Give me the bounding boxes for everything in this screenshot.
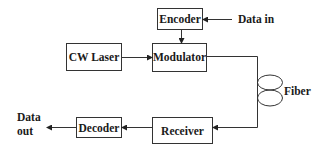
decoder-label: Decoder bbox=[79, 122, 120, 134]
data-in-label: Data in bbox=[238, 13, 275, 25]
fiber-label: Fiber bbox=[284, 85, 311, 97]
decoder-block: Decoder bbox=[77, 118, 122, 138]
block-diagram: Encoder CW Laser Modulator Receiver Deco… bbox=[0, 0, 332, 151]
cw-laser-label: CW Laser bbox=[69, 51, 120, 63]
data-out-label-line1: Data bbox=[17, 111, 41, 123]
modulator-label: Modulator bbox=[153, 51, 206, 63]
encoder-block: Encoder bbox=[158, 9, 203, 30]
receiver-label: Receiver bbox=[161, 125, 204, 137]
data-out-label-line2: out bbox=[17, 125, 33, 137]
fiber-line bbox=[207, 57, 258, 128]
receiver-block: Receiver bbox=[153, 118, 213, 144]
cw-laser-block: CW Laser bbox=[67, 44, 122, 71]
encoder-label: Encoder bbox=[159, 13, 201, 25]
fiber-coil-icon bbox=[258, 75, 283, 106]
modulator-block: Modulator bbox=[153, 44, 207, 72]
